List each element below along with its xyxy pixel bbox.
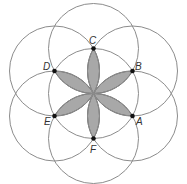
label-point-f: F bbox=[90, 145, 96, 155]
label-point-e: E bbox=[44, 117, 51, 127]
point-f-marker bbox=[91, 136, 96, 141]
label-point-b: B bbox=[135, 62, 142, 72]
point-a-marker bbox=[130, 114, 135, 119]
label-point-d: D bbox=[43, 62, 50, 72]
flower-of-life-figure bbox=[0, 0, 187, 184]
circles bbox=[10, 4, 178, 184]
point-c-marker bbox=[91, 46, 96, 51]
label-point-c: C bbox=[89, 36, 96, 46]
diagram-canvas: A B C D E F bbox=[0, 0, 187, 184]
point-e-marker bbox=[52, 114, 57, 119]
point-d-marker bbox=[52, 69, 57, 74]
label-point-a: A bbox=[136, 117, 143, 127]
